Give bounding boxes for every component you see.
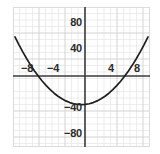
y-tick-label-neg80: −80 [56,127,82,139]
plot-area [13,7,150,147]
y-tick-label-80: 80 [60,16,82,28]
parabola-graph-figure: 80 40 −40 −80 −8 −4 4 8 [0,0,160,154]
y-tick-label-neg40: −40 [56,101,82,113]
x-tick-label-8: 8 [130,62,144,74]
y-tick-label-40: 40 [60,42,82,54]
x-tick-label-neg8: −8 [18,62,36,74]
parabola-curve [13,7,150,147]
x-tick-label-neg4: −4 [44,62,62,74]
x-tick-label-4: 4 [104,62,118,74]
